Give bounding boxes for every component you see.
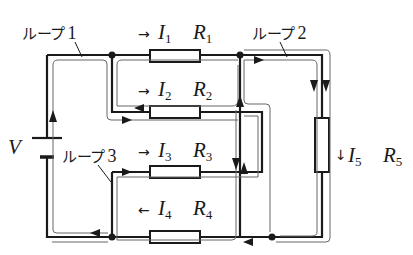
resistor-label-r3: R3: [193, 140, 212, 163]
current-label-i2: I2: [158, 79, 172, 102]
resistor-r4: [150, 231, 200, 243]
loop-label-1: ループ1: [22, 24, 76, 42]
current-label-i3: I3: [158, 140, 172, 163]
loop-label-2: ループ2: [252, 24, 306, 42]
resistor-label-r2: R2: [193, 79, 212, 102]
current-arrow-i5: ↓: [335, 148, 347, 162]
current-label-i1: I1: [158, 22, 172, 45]
current-arrow-i4: ←: [138, 203, 150, 217]
current-arrow-i3: →: [138, 145, 150, 159]
loop-label-3: ループ3: [62, 147, 116, 165]
current-arrow-i2: →: [138, 84, 150, 98]
resistor-label-r4: R4: [193, 198, 212, 221]
circuit-diagram: → I1 R1 → I2 R2 → I3 R3 ← I4 R4 ↓ I5 R5 …: [0, 0, 413, 255]
resistor-label-r1: R1: [193, 22, 212, 45]
current-label-i5: I5: [348, 145, 362, 168]
battery-icon: [32, 138, 62, 157]
current-label-i4: I4: [158, 198, 172, 221]
resistor-r2: [150, 106, 200, 118]
voltage-label: V: [8, 137, 21, 158]
resistor-r3: [150, 166, 200, 178]
current-arrow-i1: →: [138, 27, 150, 41]
resistor-label-r5: R5: [383, 145, 402, 168]
